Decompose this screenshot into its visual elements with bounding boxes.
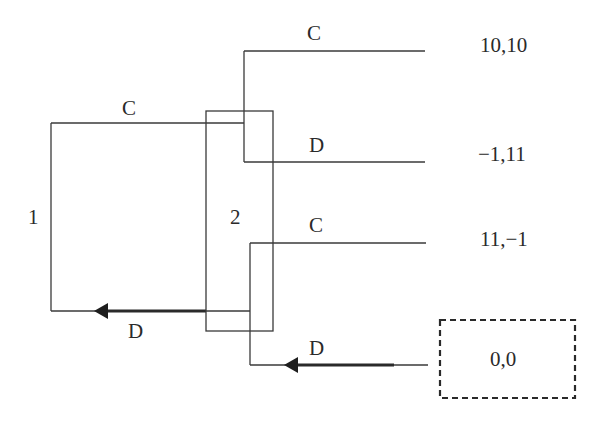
- player2-information-set: 2: [206, 111, 273, 331]
- upper-d-label: D: [309, 133, 324, 157]
- payoff-dc: 11,−1: [480, 227, 528, 251]
- payoffs: 10,10 −1,11 11,−1 0,0: [440, 33, 575, 398]
- player1-action-c: C: [51, 96, 244, 123]
- payoff-cd: −1,11: [478, 142, 526, 166]
- player1-label: 1: [28, 205, 39, 229]
- lower-c-label: C: [309, 213, 323, 237]
- game-tree-diagram: 1 C D 2 C D C D 10,10 −1,11 11,−1: [0, 0, 612, 421]
- player1-action-d: D: [51, 303, 250, 343]
- player1-node: 1: [28, 123, 51, 311]
- arrow-left-icon: [284, 357, 298, 373]
- player2-lower-node: C D: [250, 213, 428, 373]
- payoff-cc: 10,10: [480, 33, 527, 57]
- arrow-left-icon: [94, 303, 108, 319]
- player2-label: 2: [230, 205, 241, 229]
- lower-d-label: D: [309, 336, 324, 360]
- player1-c-label: C: [122, 96, 136, 120]
- player2-upper-node: C D: [244, 21, 425, 162]
- payoff-dd: 0,0: [490, 347, 516, 371]
- upper-c-label: C: [307, 21, 321, 45]
- player1-d-label: D: [128, 319, 143, 343]
